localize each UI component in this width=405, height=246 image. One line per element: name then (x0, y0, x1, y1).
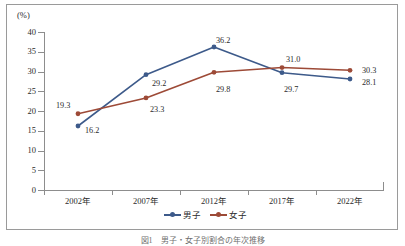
legend-marker-female-icon (210, 214, 227, 216)
data-point-female-2007年 (144, 96, 149, 101)
legend-label-female: 女子 (229, 211, 247, 220)
data-point-female-2022年 (348, 68, 353, 73)
data-point-female-2012年 (212, 70, 217, 75)
data-point-male-2017年 (280, 70, 285, 75)
data-label-female-2012: 29.8 (216, 85, 230, 94)
legend-item-female[interactable]: 女子 (210, 211, 247, 220)
data-label-male-2017: 29.7 (284, 85, 298, 94)
legend: 男子 女子 (150, 208, 260, 222)
data-label-female-2022: 30.3 (362, 66, 376, 75)
chart-screenshot: (%) 40 35 30 25 20 15 10 5 0 2002年 2007年… (0, 0, 405, 246)
data-label-male-2002: 16.2 (85, 126, 99, 135)
data-label-male-2007: 29.2 (152, 79, 166, 88)
data-point-female-2002年 (76, 111, 81, 116)
data-label-female-2002: 19.3 (56, 101, 70, 110)
data-point-female-2017年 (280, 65, 285, 70)
plot-area: (%) 40 35 30 25 20 15 10 5 0 2002年 2007年… (0, 0, 405, 246)
data-point-male-2022年 (348, 77, 353, 82)
legend-label-male: 男子 (183, 211, 201, 220)
data-point-male-2012年 (212, 45, 217, 50)
data-label-male-2012: 36.2 (216, 36, 230, 45)
data-label-male-2022: 28.1 (362, 78, 376, 87)
series-line-male (78, 47, 350, 126)
legend-item-male[interactable]: 男子 (164, 211, 201, 220)
data-label-female-2007: 23.3 (150, 105, 164, 114)
data-label-female-2017: 31.0 (286, 55, 300, 64)
legend-marker-male-icon (164, 214, 181, 216)
data-point-male-2007年 (144, 72, 149, 77)
data-point-male-2002年 (76, 124, 81, 129)
figure-caption: 図1 男子・女子別割合の年次推移 (0, 236, 405, 245)
